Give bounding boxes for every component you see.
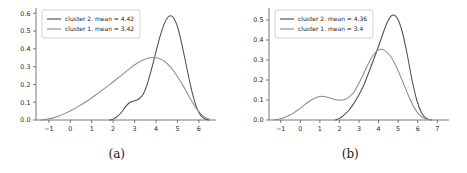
x-tick-label: 1 (318, 125, 322, 133)
y-tick-label: 0.6 (20, 10, 30, 18)
subfigure-caption-a: (a) (108, 148, 125, 160)
x-tick-label: −1 (44, 125, 53, 133)
y-tick-label: 0.1 (20, 99, 30, 107)
y-tick-label: 0.4 (20, 45, 30, 53)
y-tick-label: 0.0 (20, 116, 30, 124)
subfigure-caption-b: (b) (342, 148, 359, 160)
x-tick-label: 2 (111, 125, 115, 133)
legend-label-2: cluster 1. mean = 3.42 (65, 25, 134, 32)
subfigure-a: −101234560.00.10.20.30.40.50.6cluster 2.… (0, 0, 234, 173)
x-tick-label: 5 (396, 125, 400, 133)
x-tick-label: −1 (276, 125, 285, 133)
legend-label-1: cluster 2. mean = 4.42 (65, 15, 134, 22)
y-tick-label: 0.3 (254, 56, 264, 64)
legend-box (275, 10, 373, 38)
y-tick-label: 0.0 (254, 116, 264, 124)
y-tick-label: 0.3 (20, 63, 30, 71)
subfigure-b: −1012345670.00.10.20.30.40.5cluster 2. m… (234, 0, 467, 173)
x-tick-label: 7 (435, 125, 439, 133)
plot-area-a: −101234560.00.10.20.30.40.50.6cluster 2.… (10, 2, 224, 142)
x-tick-label: 5 (175, 125, 179, 133)
x-tick-label: 6 (197, 125, 201, 133)
density-plot-a: −101234560.00.10.20.30.40.50.6cluster 2.… (10, 2, 224, 142)
plot-area-b: −1012345670.00.10.20.30.40.5cluster 2. m… (243, 2, 457, 142)
legend-label-1: cluster 2. mean = 4.36 (298, 15, 367, 22)
x-tick-label: 0 (299, 125, 303, 133)
density-curve-2 (41, 57, 209, 120)
x-tick-label: 4 (154, 125, 158, 133)
x-tick-label: 2 (338, 125, 342, 133)
figure-container: −101234560.00.10.20.30.40.50.6cluster 2.… (0, 0, 467, 173)
y-tick-label: 0.1 (254, 96, 264, 104)
x-tick-label: 1 (89, 125, 93, 133)
y-tick-label: 0.2 (20, 81, 30, 89)
y-tick-label: 0.2 (254, 76, 264, 84)
x-tick-label: 3 (132, 125, 136, 133)
density-plot-b: −1012345670.00.10.20.30.40.5cluster 2. m… (243, 2, 457, 142)
x-tick-label: 6 (416, 125, 420, 133)
x-tick-label: 0 (68, 125, 72, 133)
x-tick-label: 4 (377, 125, 381, 133)
legend-box (42, 10, 140, 38)
x-tick-label: 3 (357, 125, 361, 133)
y-tick-label: 0.4 (254, 36, 264, 44)
y-tick-label: 0.5 (20, 27, 30, 35)
legend-label-2: cluster 1. mean = 3.4 (298, 25, 364, 32)
y-tick-label: 0.5 (254, 16, 264, 24)
